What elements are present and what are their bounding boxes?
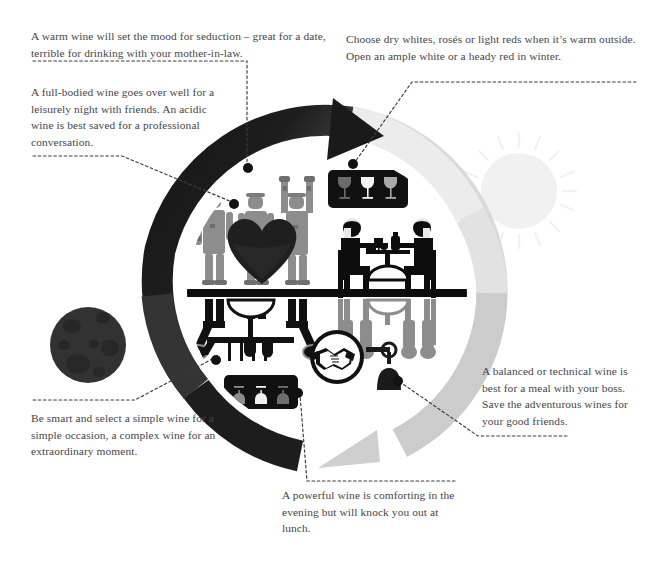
figure-diner-right: [392, 218, 436, 298]
leader-dot-balanced: [393, 376, 403, 386]
reflection-group: [187, 299, 436, 409]
ground-line: [183, 289, 503, 297]
callout-full-bodied-wine: A full-bodied wine goes over well for a …: [31, 84, 227, 150]
leader-dot-drywhites: [348, 159, 358, 169]
callout-powerful-wine-evening: A powerful wine is comforting in the eve…: [282, 487, 462, 537]
figure-diner-left: [338, 218, 382, 298]
leader-dot-fullbody: [229, 199, 239, 209]
sign-wine-glasses-top: [328, 170, 408, 208]
dining-table: [366, 250, 410, 280]
leader-dot-besmart: [211, 355, 221, 365]
arrowhead-counterclockwise: [318, 430, 380, 468]
sign-wine-glasses-bottom: [224, 375, 298, 409]
leader-dot-seduction: [243, 163, 253, 173]
handshake-icon: [310, 330, 364, 384]
callout-dry-whites-roses: Choose dry whites, rosés or light reds w…: [346, 31, 636, 64]
callout-balanced-technical-wine: A balanced or technical wine is best for…: [482, 363, 647, 429]
figure-friend-left: [195, 192, 233, 285]
infographic-canvas: A warm wine will set the mood for seduct…: [0, 0, 653, 580]
callout-simple-wine-simple-occasion: Be smart and select a simple wine for a …: [31, 410, 236, 460]
callout-warm-wine-seduction: A warm wine will set the mood for seduct…: [31, 28, 343, 61]
couple-dining: [338, 218, 436, 298]
moon-icon: [50, 307, 126, 383]
leader-dot-powerful: [293, 388, 303, 398]
